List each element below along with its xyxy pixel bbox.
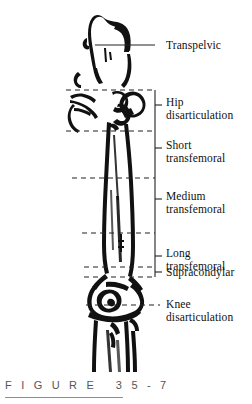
label-short-transfem: Shorttransfemoral [166, 139, 225, 164]
level-bracket-group [155, 90, 162, 277]
label-supracondylar: Supracondylar [166, 266, 234, 279]
ilium-outline [88, 15, 131, 68]
label-hip-disartic-line-1: disarticulation [166, 109, 233, 122]
caption-underline [5, 397, 123, 398]
ilium-body-right [121, 54, 131, 88]
tibia-shading-2 [116, 340, 121, 372]
label-knee-disartic: Kneedisarticulation [166, 298, 233, 323]
label-medium-transfem-line-1: transfemoral [166, 203, 225, 216]
figure-container: TranspelvicHipdisarticulationShorttransf… [0, 0, 252, 404]
label-knee-disartic-line-0: Knee [166, 298, 233, 311]
sacrum-mark-1 [104, 48, 107, 62]
shaft-linea-aspera [116, 196, 122, 262]
tibia-right-cortex [124, 321, 130, 372]
shaft-hatch-3 [120, 234, 122, 252]
label-hip-disartic-line-0: Hip [166, 96, 233, 109]
fibula-head [129, 318, 139, 331]
iliac-crest-left-hook [83, 38, 89, 49]
shaft-shading-1 [113, 135, 119, 200]
bone-drawing [68, 15, 146, 372]
ilium-body [93, 68, 103, 84]
label-long-transfem-line-0: Long [166, 247, 225, 260]
label-supracondylar-line-0: Supracondylar [166, 266, 234, 279]
label-medium-transfem: Mediumtransfemoral [166, 190, 225, 215]
label-short-transfem-line-1: transfemoral [166, 152, 225, 165]
figure-caption: F I G U R E 3 5 - 7 [5, 379, 169, 391]
label-medium-transfem-line-0: Medium [166, 190, 225, 203]
fibula-shaft [131, 331, 137, 372]
ischium-stroke-left [74, 72, 81, 88]
sacrum-mark-2 [109, 52, 112, 60]
label-hip-disartic: Hipdisarticulation [166, 96, 233, 121]
label-knee-disartic-line-1: disarticulation [166, 311, 233, 324]
label-transpelvic: Transpelvic [166, 39, 221, 52]
level-lines-group [66, 45, 160, 305]
label-short-transfem-line-0: Short [166, 139, 225, 152]
femur-shaft-left-cortex [102, 122, 111, 274]
label-transpelvic-line-0: Transpelvic [166, 39, 221, 52]
tibia-left-cortex [92, 320, 98, 372]
femur-shaft-right-cortex [124, 124, 135, 277]
shaft-shading-2 [110, 190, 114, 250]
